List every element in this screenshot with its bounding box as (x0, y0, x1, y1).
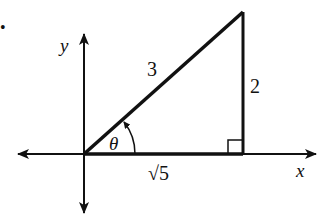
y-axis-label: y (58, 35, 69, 56)
triangle-diagram: • y x 3 2 θ √5 (0, 0, 323, 215)
bullet-marker: • (0, 19, 6, 36)
adjacent-label: √5 (148, 162, 169, 184)
angle-arc-arrow-icon (124, 122, 135, 154)
opposite-label: 2 (250, 75, 260, 97)
hypotenuse-label: 3 (147, 58, 157, 80)
angle-theta-label: θ (109, 133, 118, 154)
hypotenuse-side (84, 12, 243, 154)
x-axis-label: x (295, 160, 305, 181)
right-angle-marker (228, 140, 242, 154)
